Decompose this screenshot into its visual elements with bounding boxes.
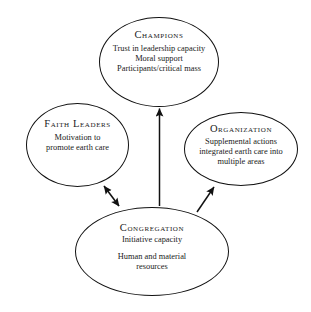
node-organization-line-1: Supplemental actions — [199, 137, 282, 147]
node-organization-line-3: multiple areas — [199, 157, 282, 167]
node-champions-title: Champions — [135, 29, 184, 41]
node-champions-line-2: Moral support — [113, 54, 206, 64]
node-champions-line-3: Participants/critical mass — [113, 64, 206, 74]
arrow-congregation-to-faith-leaders — [104, 186, 119, 206]
node-congregation-line-3: resources — [118, 262, 186, 272]
node-congregation-line-1: Initiative capacity — [118, 235, 186, 245]
node-faith-leaders-line-2: promote earth care — [46, 143, 109, 153]
node-champions-line-1: Trust in leadership capacity — [113, 44, 206, 54]
node-organization[interactable]: Organization Supplemental actions integr… — [184, 112, 298, 186]
node-organization-line-2: integrated earth care into — [199, 147, 282, 157]
node-faith-leaders-body: Motivation to promote earth care — [46, 133, 109, 153]
node-faith-leaders-title: Faith Leaders — [44, 118, 111, 130]
node-congregation-title: Congregation — [120, 222, 184, 234]
node-organization-body: Supplemental actions integrated earth ca… — [199, 137, 282, 168]
diagram-canvas: Champions Trust in leadership capacity M… — [0, 0, 311, 312]
node-congregation-body: Initiative capacity Human and material r… — [118, 235, 186, 273]
node-faith-leaders[interactable]: Faith Leaders Motivation to promote eart… — [26, 103, 129, 187]
node-champions[interactable]: Champions Trust in leadership capacity M… — [99, 17, 219, 107]
node-congregation[interactable]: Congregation Initiative capacity Human a… — [75, 207, 229, 296]
node-congregation-line-2: Human and material — [118, 252, 186, 262]
arrow-congregation-to-organization — [197, 187, 214, 212]
node-champions-body: Trust in leadership capacity Moral suppo… — [113, 44, 206, 75]
node-organization-title: Organization — [210, 123, 272, 135]
node-faith-leaders-line-1: Motivation to — [46, 133, 109, 143]
